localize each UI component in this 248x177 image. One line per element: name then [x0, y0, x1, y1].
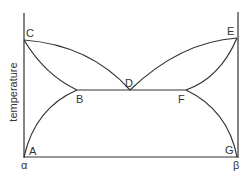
x-axis-left-label: α	[21, 159, 28, 171]
point-label-e: E	[227, 25, 234, 37]
point-label-a: A	[29, 145, 37, 157]
point-label-c: C	[26, 27, 34, 39]
liquidus-right-curve	[130, 38, 237, 90]
liquidus-left-curve	[24, 40, 130, 90]
solidus-left-curve	[24, 40, 77, 90]
point-label-g: G	[225, 144, 234, 156]
point-label-d: D	[125, 77, 133, 89]
x-axis-right-label: β	[233, 159, 239, 171]
y-axis-label: temperature	[7, 62, 19, 121]
solidus-right-curve	[186, 38, 237, 90]
phase-diagram: C E D B F A G α β temperature	[0, 0, 248, 177]
point-label-f: F	[178, 93, 185, 105]
point-label-b: B	[76, 93, 83, 105]
